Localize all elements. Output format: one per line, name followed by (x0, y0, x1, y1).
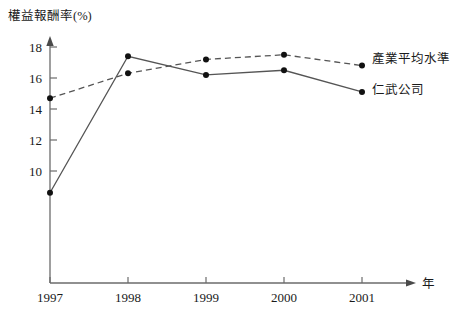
y-tick-label-18: 18 (29, 40, 42, 55)
x-tick-label-1997: 1997 (37, 290, 64, 305)
y-axis (46, 36, 53, 283)
data-point (203, 56, 209, 62)
data-point (47, 190, 53, 196)
data-point (125, 70, 131, 76)
data-point (47, 95, 53, 101)
x-tick-label-1998: 1998 (115, 290, 141, 305)
x-tick-label-2001: 2001 (349, 290, 375, 305)
y-tick-label-16: 16 (29, 71, 43, 86)
data-point (281, 67, 287, 73)
y-tick-label-10: 10 (29, 164, 42, 179)
data-point (359, 89, 365, 95)
data-point (281, 52, 287, 58)
x-axis (50, 279, 416, 286)
x-axis-title: 年 (422, 277, 435, 291)
x-tick-label-1999: 1999 (193, 290, 219, 305)
x-tick-label-2000: 2000 (271, 290, 297, 305)
data-point (203, 72, 209, 78)
data-point (125, 53, 131, 59)
data-point (359, 63, 365, 69)
line-chart: 18 16 14 12 10 1997 1998 1999 2000 2001 … (0, 0, 451, 324)
y-tick-label-12: 12 (29, 133, 42, 148)
series-company (47, 53, 365, 195)
x-axis-ticks (50, 277, 362, 283)
y-axis-ticks (50, 47, 57, 171)
chart-container: 18 16 14 12 10 1997 1998 1999 2000 2001 … (0, 0, 451, 324)
series-label-industry-average: 產業平均水準 (372, 51, 450, 66)
y-tick-label-14: 14 (29, 102, 43, 117)
series-label-company: 仁武公司 (372, 83, 424, 97)
y-axis-title: 權益報酬率(%) (8, 8, 92, 23)
